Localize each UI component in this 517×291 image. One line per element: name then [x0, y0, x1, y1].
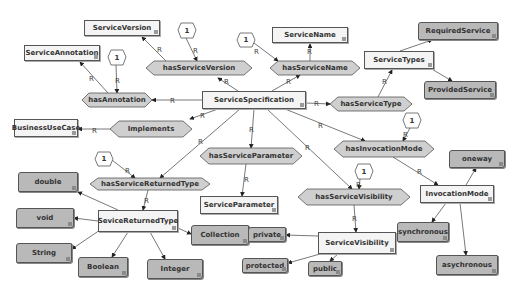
property-text: hasServiceVisibility — [315, 193, 392, 201]
node-label: synchronous — [398, 228, 448, 236]
property-label: hasServiceName — [270, 61, 360, 75]
node-label: public — [313, 265, 337, 273]
property-text: hasServiceParameter — [209, 152, 293, 160]
node-label: protected — [246, 262, 285, 270]
svg-text:R: R — [249, 126, 254, 134]
individual-provided-service[interactable]: ProvidedService — [424, 81, 496, 99]
node-label: Collection — [200, 231, 239, 239]
svg-text:R: R — [157, 46, 162, 54]
class-business-use-case[interactable]: BusinessUseCase — [14, 119, 78, 137]
cardinality-text: 1 — [244, 36, 249, 44]
svg-text:R: R — [200, 112, 205, 120]
node-label: RequiredService — [426, 27, 491, 35]
individual-void[interactable]: void — [16, 208, 74, 228]
svg-text:R: R — [305, 144, 310, 152]
svg-text:R: R — [417, 168, 422, 176]
individual-required-service[interactable]: RequiredService — [418, 22, 498, 40]
property-label: hasServiceVisibility — [298, 189, 410, 205]
class-service-annotation[interactable]: ServiceAnnotation — [24, 45, 100, 61]
svg-text:R: R — [286, 78, 291, 86]
class-service-parameter[interactable]: ServiceParameter — [200, 196, 278, 214]
cardinality-value: 1 — [403, 113, 421, 128]
class-invocation-mode[interactable]: InvocationMode — [420, 185, 494, 203]
svg-text:R: R — [198, 138, 203, 146]
cardinality-text: 1 — [115, 54, 120, 62]
property-label: hasServiceParameter — [200, 148, 302, 164]
node-label: String — [32, 249, 56, 257]
property-label: hasServiceReturnedType — [90, 178, 210, 190]
property-text: hasAnnotation — [88, 96, 146, 104]
svg-text:R: R — [244, 176, 249, 184]
svg-text:R: R — [144, 197, 149, 205]
node-label: BusinessUseCase — [12, 124, 80, 132]
ontology-diagram: R R R R R R R R R R R R R R R R R R R R … — [0, 0, 517, 291]
node-label: ProvidedService — [428, 86, 492, 94]
node-label: ServiceTypes — [373, 56, 425, 64]
individual-asychronous[interactable]: asychronous — [436, 255, 498, 275]
cardinality-value: 1 — [178, 23, 196, 38]
property-label: hasInvocationMode — [334, 141, 434, 157]
individual-public[interactable]: public — [308, 261, 342, 276]
property-text: hasServiceVersion — [163, 64, 236, 72]
property-text: Implements — [128, 125, 175, 133]
svg-text:R: R — [125, 167, 130, 175]
node-label: ServiceVersion — [93, 24, 152, 32]
property-text: hasServiceName — [282, 64, 348, 72]
svg-text:R: R — [89, 75, 94, 83]
individual-double[interactable]: double — [18, 172, 78, 192]
node-label: private — [253, 231, 281, 239]
class-service-visibility[interactable]: ServiceVisibility — [318, 232, 396, 254]
individual-protected[interactable]: protected — [242, 258, 288, 273]
cardinality-value: 1 — [237, 33, 255, 47]
property-text: hasServiceType — [340, 100, 401, 108]
property-label: hasServiceVersion — [146, 61, 252, 75]
individual-private[interactable]: private — [248, 227, 286, 242]
class-service-version[interactable]: ServiceVersion — [84, 20, 160, 36]
individual-integer[interactable]: Integer — [147, 259, 203, 279]
cardinality-value: 1 — [95, 152, 113, 166]
node-label: oneway — [462, 155, 492, 163]
individual-oneway[interactable]: oneway — [449, 150, 505, 168]
cardinality-text: 1 — [410, 117, 415, 125]
svg-text:R: R — [352, 215, 357, 223]
class-service-types[interactable]: ServiceTypes — [364, 51, 434, 69]
cardinality-value: 1 — [108, 50, 126, 65]
svg-text:R: R — [382, 78, 387, 86]
cardinality-value: 1 — [355, 164, 373, 179]
individual-synchronous[interactable]: synchronous — [397, 222, 449, 242]
node-label: ServiceSpecification — [214, 96, 294, 104]
property-text: hasInvocationMode — [346, 145, 423, 153]
individual-collection[interactable]: Collection — [191, 225, 249, 245]
node-label: double — [35, 178, 62, 186]
svg-text:R: R — [318, 122, 323, 130]
node-label: Integer — [161, 265, 190, 273]
class-service-specification[interactable]: ServiceSpecification — [202, 91, 306, 109]
svg-text:R: R — [193, 47, 198, 55]
svg-text:R: R — [92, 127, 97, 135]
node-label: SeviceReturnedType — [98, 217, 179, 225]
class-service-name[interactable]: ServiceName — [272, 27, 348, 43]
individual-boolean[interactable]: Boolean — [78, 257, 128, 277]
node-label: void — [37, 214, 54, 222]
individual-string[interactable]: String — [16, 243, 72, 263]
cardinality-text: 1 — [362, 168, 367, 176]
cardinality-text: 1 — [185, 27, 190, 35]
node-label: Boolean — [87, 263, 119, 271]
node-label: ServiceParameter — [204, 201, 275, 209]
node-label: InvocationMode — [426, 190, 489, 198]
svg-text:R: R — [170, 97, 175, 105]
svg-text:R: R — [314, 100, 319, 108]
edge-label: R — [224, 78, 229, 86]
node-label: ServiceAnnotation — [26, 49, 99, 57]
svg-text:R: R — [254, 48, 259, 56]
node-label: asychronous — [442, 261, 492, 269]
svg-text:R: R — [356, 181, 361, 189]
class-service-returned-type[interactable]: SeviceReturnedType — [98, 210, 178, 232]
node-label: ServiceVisibility — [325, 239, 388, 247]
property-text: hasServiceReturnedType — [101, 180, 199, 188]
property-label: hasServiceType — [330, 97, 412, 111]
svg-text:R: R — [115, 77, 120, 85]
edges-layer: R R R R R R R R R R R R R R R R R R R R … — [0, 0, 517, 291]
svg-text:R: R — [307, 48, 312, 56]
svg-text:R: R — [403, 131, 408, 139]
